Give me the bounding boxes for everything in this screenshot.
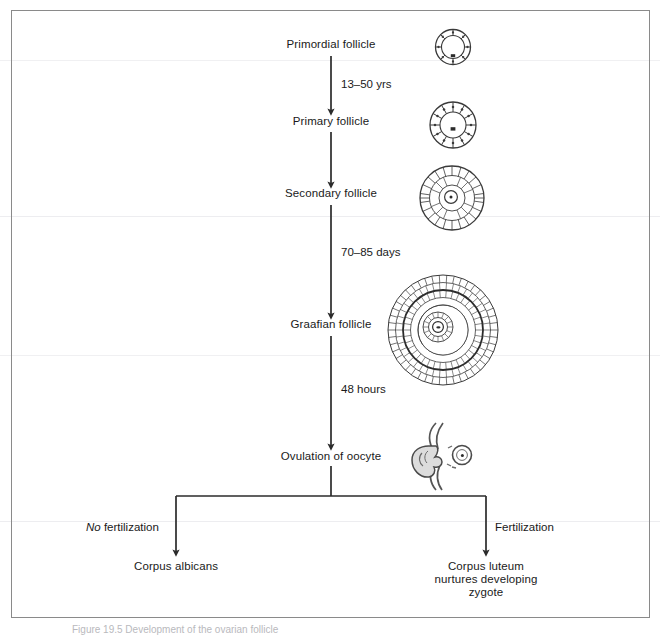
edge-label-no-emphasis: No — [86, 521, 101, 533]
node-label-ovulation-of-oocyte: Ovulation of oocyte — [281, 450, 381, 463]
node-label-graafian-follicle: Graafian follicle — [291, 318, 372, 331]
node-label-primordial-follicle: Primordial follicle — [287, 38, 376, 51]
edge-label-48-hours: 48 hours — [341, 383, 386, 396]
graafian-follicle-icon — [388, 275, 498, 385]
corpus-luteum-line-3: zygote — [469, 586, 503, 598]
secondary-follicle-icon — [420, 166, 484, 230]
figure-caption: Figure 19.5 Development of the ovarian f… — [72, 624, 278, 636]
node-label-corpus-albicans: Corpus albicans — [134, 560, 218, 573]
node-label-corpus-luteum: Corpus luteum nurtures developing zygote — [401, 560, 571, 599]
node-label-primary-follicle: Primary follicle — [293, 115, 369, 128]
corpus-luteum-line-2: nurtures developing — [435, 573, 538, 585]
primordial-follicle-icon — [436, 30, 471, 65]
edge-label-70-85-days: 70–85 days — [341, 246, 400, 259]
edge-label-fertilization-rest: fertilization — [101, 521, 159, 533]
edge-label-no-fertilization: No fertilization — [86, 521, 159, 534]
primary-follicle-icon — [430, 102, 476, 148]
edge-label-13-50-yrs: 13–50 yrs — [341, 78, 392, 91]
edge-label-fertilization: Fertilization — [495, 521, 554, 534]
node-label-secondary-follicle: Secondary follicle — [285, 187, 377, 200]
corpus-luteum-line-1: Corpus luteum — [448, 560, 524, 572]
ovulation-icon — [412, 423, 472, 490]
